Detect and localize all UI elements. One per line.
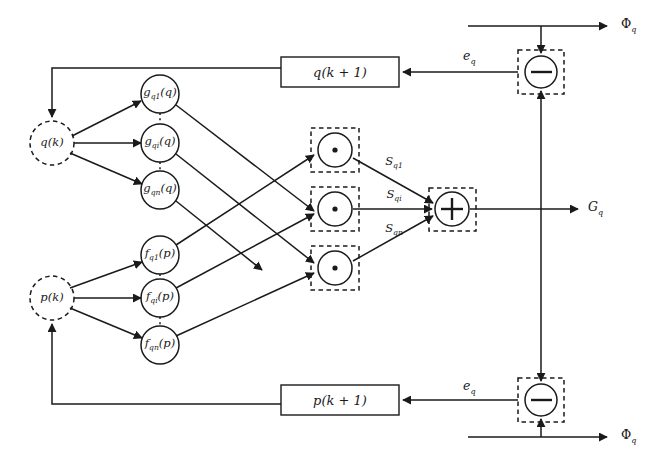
edge-pk-to-fqn: [70, 308, 142, 338]
edge-gq1-to-product-1: [176, 105, 314, 211]
reference-label-phiq-bottom: Φq: [621, 429, 636, 445]
edge-fqi-to-product-i: [176, 214, 314, 288]
output-label-gq: Gq: [588, 201, 603, 217]
f-node-qi-label: fqi(p): [146, 291, 174, 305]
error-label-eq-bottom: eq: [463, 380, 476, 396]
q-input-label: q(k): [40, 137, 63, 149]
f-node-qn-label: fqn(p): [145, 338, 175, 352]
g-node-q1-label: gq1(q): [143, 87, 176, 101]
product-dot-n: [332, 265, 337, 270]
f-node-q1-label: fq1(p): [145, 248, 175, 262]
product-dot-1: [332, 147, 337, 152]
p-input-label: p(k): [40, 292, 63, 304]
edge-qk-to-gqn: [70, 153, 142, 184]
fnn-block-diagram: q(k) p(k) gq1(q) gqi(q) gqn(q) fq1(p) fq…: [0, 0, 668, 467]
edge-fqn-to-product-n: [176, 273, 314, 336]
product-dot-i: [332, 206, 337, 211]
edge-fq1-to-product-1: [176, 155, 314, 245]
reference-label-phiq-top: Φq: [621, 18, 636, 34]
q-next-box-label: q(k + 1): [313, 66, 367, 79]
error-label-eq-top: eq: [463, 50, 476, 66]
p-next-box-label: p(k + 1): [313, 394, 367, 407]
signal-label-sq1: Sq1: [385, 156, 403, 170]
edge-gqi-to-product-i: [176, 154, 314, 263]
signal-label-sqn: Sqn: [385, 223, 403, 237]
edge-pk-to-fq1: [70, 262, 142, 288]
signal-label-sqi: Sqi: [386, 189, 401, 203]
g-node-qn-label: gqn(q): [143, 183, 176, 197]
g-node-qi-label: gqi(q): [144, 136, 175, 150]
edge-qk-to-gq1: [72, 101, 141, 136]
